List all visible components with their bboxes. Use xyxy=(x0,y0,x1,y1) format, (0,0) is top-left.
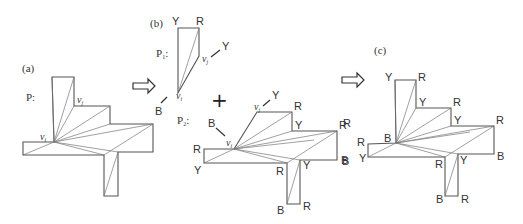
c-vertex-1: R xyxy=(418,71,426,83)
c-vertex-12: R xyxy=(357,136,365,148)
p1-vertex-y-top: Y xyxy=(172,15,180,27)
c-vertex-8: R xyxy=(461,193,469,205)
c-vertex-6: B xyxy=(497,150,504,162)
polygon-p1-label: P1: xyxy=(156,47,168,60)
polygon-p2-label: P2: xyxy=(177,114,189,127)
p2-vertex-r-left: R xyxy=(193,143,201,155)
panel-b-label: (b) xyxy=(150,17,163,30)
p1-vi-arrow-icon xyxy=(161,97,167,103)
polygon-p-label: P: xyxy=(26,91,35,103)
c-vertex-5: R xyxy=(496,114,504,126)
p1-vj-label: vj xyxy=(202,53,208,65)
c-vertex-9: B xyxy=(436,193,443,205)
p2-vertex-r-top: R xyxy=(294,100,302,112)
p2-vertex-r-corner: R xyxy=(276,165,284,177)
c-vertex-4: Y xyxy=(454,114,462,126)
panel-b: (b) P1: Y R vj Y vi B + P2: vj Y xyxy=(150,15,348,216)
p2-vertex-b-bottom: B xyxy=(277,204,284,216)
p1-vertex-r-top: R xyxy=(196,15,204,27)
c-left-r-fragment: R xyxy=(343,117,351,129)
p2-vertex-y-left: Y xyxy=(194,164,202,176)
p2-triangulation-diagonals xyxy=(204,112,337,204)
p2-vj-label: vj xyxy=(254,101,260,113)
p2-vj-arrow-icon xyxy=(263,100,270,106)
arrow-a-to-b-icon xyxy=(133,79,155,93)
c-vertex-2: Y xyxy=(419,96,427,108)
p2-vi-label: vi xyxy=(226,137,232,149)
c-vertex-7: Y xyxy=(460,154,468,166)
p2-vertex-b-arrow: B xyxy=(208,117,215,129)
p1-vi-label: vi xyxy=(176,90,182,102)
p2-vertex-y-inner: Y xyxy=(303,159,311,171)
p2-vertex-y-step: Y xyxy=(295,119,303,131)
panel-c-label: (c) xyxy=(374,44,387,57)
vertex-vi-label: vi xyxy=(40,131,46,143)
c-vertex-3: R xyxy=(453,96,461,108)
c-vertex-13: B xyxy=(384,132,391,144)
p2-vertex-r-bottom: R xyxy=(303,200,311,212)
arrow-b-to-c-icon xyxy=(342,73,364,87)
c-vertex-10: R xyxy=(435,158,443,170)
c-left-b-fragment: B xyxy=(342,155,349,167)
p1-vj-arrow-icon xyxy=(211,50,220,57)
diagram-canvas: (a) P: vi vj (b) P1: Y R vj xyxy=(0,0,523,224)
panel-a-label: (a) xyxy=(22,62,35,75)
c-vertex-11: Y xyxy=(359,152,367,164)
panel-a: (a) P: vi vj xyxy=(22,62,153,196)
plus-sign: + xyxy=(211,88,228,112)
vertex-vj-label: vj xyxy=(77,94,83,106)
p2-vi-arrow-icon xyxy=(216,128,225,136)
panel-c: (c) Y R Y R Y R B Y R B R Y R B B R xyxy=(342,44,504,205)
c-vertex-0: Y xyxy=(385,71,393,83)
p2-vertex-y-arrow: Y xyxy=(272,89,280,101)
p1-vertex-y-arrow: Y xyxy=(222,40,230,52)
p1-vertex-b-arrow: B xyxy=(155,105,162,117)
